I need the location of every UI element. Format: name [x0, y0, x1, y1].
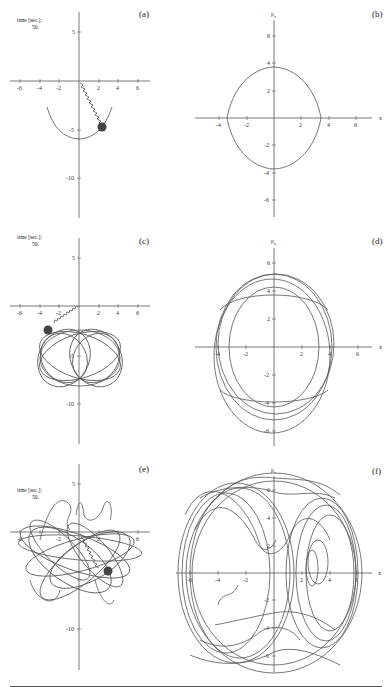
mass-c — [44, 326, 53, 335]
panel-label-a: (a) — [139, 9, 149, 19]
mass-e — [104, 567, 113, 576]
svg-text:-6: -6 — [264, 197, 269, 203]
svg-text:4: 4 — [267, 515, 270, 521]
svg-text:4: 4 — [116, 85, 119, 91]
chaotic-trajectory-e — [14, 501, 142, 611]
svg-text:4: 4 — [267, 60, 270, 66]
svg-text:5: 5 — [72, 29, 75, 35]
svg-text:6: 6 — [136, 85, 139, 91]
time-label-a: time [sec.]: — [17, 17, 42, 23]
svg-text:6: 6 — [136, 310, 139, 316]
svg-text:4: 4 — [327, 122, 330, 128]
svg-text:2: 2 — [267, 316, 270, 322]
svg-text:2: 2 — [300, 351, 303, 357]
panel-e: time [sec.]: 50. (e) -6-2 26 5-10 — [10, 464, 150, 670]
panel-a: time [sec.]: 50. (a) -6-4-2 246 5-5-10 — [10, 9, 150, 218]
svg-text:2: 2 — [97, 85, 100, 91]
svg-text:-10: -10 — [66, 401, 74, 407]
px-label-d: px — [271, 238, 276, 246]
panel-label-d: (d) — [372, 236, 383, 246]
svg-text:-6: -6 — [187, 577, 192, 583]
svg-text:-4: -4 — [264, 170, 269, 176]
svg-text:6: 6 — [136, 536, 139, 542]
panel-label-f: (f) — [372, 466, 381, 476]
svg-text:-2: -2 — [264, 372, 269, 378]
svg-text:-6: -6 — [17, 85, 22, 91]
svg-text:6: 6 — [354, 122, 357, 128]
panel-d: (d) px x -4-22 46 642 -2-4-6 — [195, 236, 383, 446]
svg-text:-2: -2 — [56, 536, 61, 542]
lissajous-trajectory-c — [27, 320, 132, 397]
svg-text:-2: -2 — [56, 85, 61, 91]
svg-text:4: 4 — [328, 577, 331, 583]
svg-text:-2: -2 — [56, 310, 61, 316]
svg-text:5: 5 — [72, 255, 75, 261]
svg-text:6: 6 — [267, 33, 270, 39]
x-label-f: x — [378, 570, 381, 576]
svg-text:-2: -2 — [264, 142, 269, 148]
mass-a — [98, 123, 107, 132]
svg-text:-2: -2 — [243, 577, 248, 583]
svg-text:-5: -5 — [69, 127, 74, 133]
time-label-e: time [sec.]: — [17, 487, 42, 493]
svg-text:-4: -4 — [264, 400, 269, 406]
svg-text:4: 4 — [116, 310, 119, 316]
svg-text:-2: -2 — [244, 122, 249, 128]
svg-text:2: 2 — [300, 577, 303, 583]
panel-f: (f) px x -6-4-2 246 642 -2-4-6 — [176, 466, 381, 673]
svg-text:-4: -4 — [215, 577, 220, 583]
svg-text:4: 4 — [328, 351, 331, 357]
panel-label-c: (c) — [139, 236, 149, 246]
panel-c: time [sec.]: 50. (c) -6-4-2 246 5-5-10 — [10, 234, 150, 444]
svg-text:4: 4 — [267, 288, 270, 294]
svg-text:2: 2 — [267, 88, 270, 94]
svg-text:2: 2 — [299, 122, 302, 128]
svg-text:5: 5 — [72, 481, 75, 487]
time-label-c: time [sec.]: — [17, 234, 42, 240]
x-label-b: x — [379, 115, 382, 121]
panel-b: (b) px x -4-22 46 642 -2-4-6 — [195, 9, 383, 217]
svg-text:6: 6 — [267, 260, 270, 266]
panel-label-e: (e) — [139, 464, 149, 474]
time-value-e: 50. — [32, 494, 40, 500]
svg-text:-4: -4 — [37, 310, 42, 316]
svg-text:-6: -6 — [17, 310, 22, 316]
svg-text:6: 6 — [356, 351, 359, 357]
svg-text:-10: -10 — [66, 175, 74, 181]
svg-text:-10: -10 — [66, 626, 74, 632]
time-value-a: 50. — [32, 24, 40, 30]
svg-text:-2: -2 — [243, 351, 248, 357]
svg-text:-4: -4 — [37, 85, 42, 91]
px-label-b: px — [271, 11, 276, 19]
svg-text:-4: -4 — [216, 122, 221, 128]
x-label-d: x — [379, 344, 382, 350]
svg-text:2: 2 — [97, 310, 100, 316]
figure-canvas: time [sec.]: 50. (a) -6-4-2 246 5-5-10 (… — [0, 0, 390, 687]
time-value-c: 50. — [32, 241, 40, 247]
panel-label-b: (b) — [372, 9, 383, 19]
